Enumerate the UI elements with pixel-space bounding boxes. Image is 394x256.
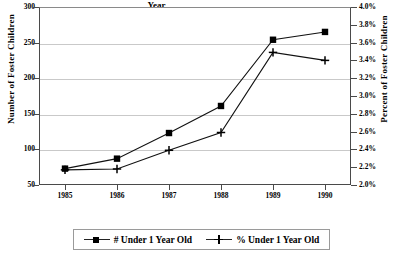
chart-figure: Number of Foster Children Percent of Fos…	[0, 0, 394, 256]
series-line-count	[65, 32, 325, 169]
legend-label-count: # Under 1 Year Old	[114, 235, 192, 245]
series-markers-percent	[61, 48, 329, 174]
legend-item-percent: % Under 1 Year Old	[206, 235, 319, 245]
data-point-marker	[166, 130, 172, 136]
legend-item-count: # Under 1 Year Old	[84, 235, 192, 245]
chart-legend: # Under 1 Year Old % Under 1 Year Old	[73, 229, 330, 250]
series-markers-count	[62, 29, 328, 172]
data-point-marker	[269, 48, 277, 56]
legend-label-percent: % Under 1 Year Old	[236, 235, 319, 245]
legend-square-marker-icon	[84, 235, 110, 244]
data-point-marker	[114, 155, 120, 161]
series-line-percent	[65, 52, 325, 169]
data-point-marker	[113, 165, 121, 173]
data-point-marker	[270, 37, 276, 43]
data-point-marker	[217, 128, 225, 136]
data-point-marker	[218, 103, 224, 109]
data-point-marker	[165, 146, 173, 154]
legend-plus-marker-icon	[206, 235, 232, 244]
series-layer	[0, 0, 394, 256]
data-point-marker	[321, 56, 329, 64]
data-point-marker	[322, 29, 328, 35]
